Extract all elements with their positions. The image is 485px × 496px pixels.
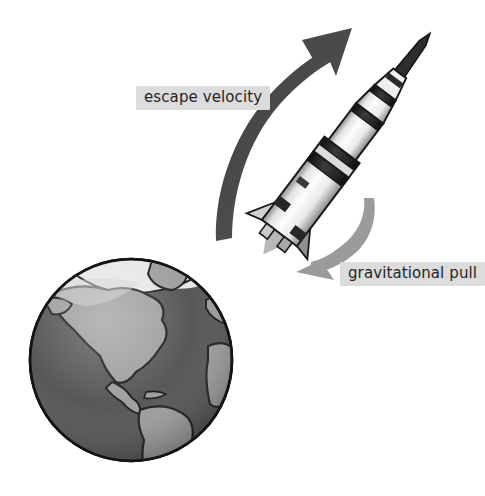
rocket-escape-tower [395, 30, 435, 77]
iceland [209, 284, 219, 292]
gravitational-pull-label: gravitational pull [340, 262, 485, 286]
saturn-v-rocket [233, 11, 460, 278]
escape-velocity-label: escape velocity [136, 86, 270, 110]
earth-globe [30, 256, 237, 482]
